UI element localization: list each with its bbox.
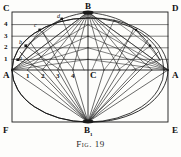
label-vscale-1: 1 — [4, 56, 8, 63]
label-point-b: b — [19, 39, 22, 45]
figure-container: C B D A C A F B1 E 4 3 2 1 1 2 3 4 a b c… — [0, 0, 181, 157]
label-vscale-3: 3 — [4, 33, 8, 40]
label-top-right: D — [172, 4, 179, 13]
label-top-mid: B — [85, 2, 91, 11]
label-mid-left: A — [3, 71, 10, 80]
figure-caption: Fig. 19 — [0, 139, 181, 149]
label-point-d: d — [57, 13, 60, 19]
label-mid-right: A — [172, 71, 179, 80]
label-bottom-left: F — [3, 126, 9, 135]
label-hscale-1: 1 — [26, 73, 30, 80]
label-hscale-2: 2 — [41, 73, 45, 80]
label-bottom-mid-subscript: 1 — [90, 132, 93, 137]
construction-chords-left — [18, 19, 84, 70]
label-bottom-right: E — [172, 126, 178, 135]
label-vscale-2: 2 — [4, 44, 8, 51]
label-point-a: a — [19, 55, 22, 61]
label-center: C — [90, 71, 97, 80]
label-hscale-3: 3 — [56, 73, 60, 80]
caption-number: 19 — [95, 139, 105, 149]
label-point-c: c — [34, 22, 37, 28]
rays-from-a-left — [12, 12, 88, 70]
label-vscale-4: 4 — [4, 21, 8, 28]
label-bottom-mid: B1 — [84, 126, 93, 137]
label-top-left: C — [3, 4, 10, 13]
label-hscale-4: 4 — [71, 73, 75, 80]
rays-from-b1-left — [12, 32, 88, 122]
caption-prefix: Fig. — [76, 139, 92, 149]
